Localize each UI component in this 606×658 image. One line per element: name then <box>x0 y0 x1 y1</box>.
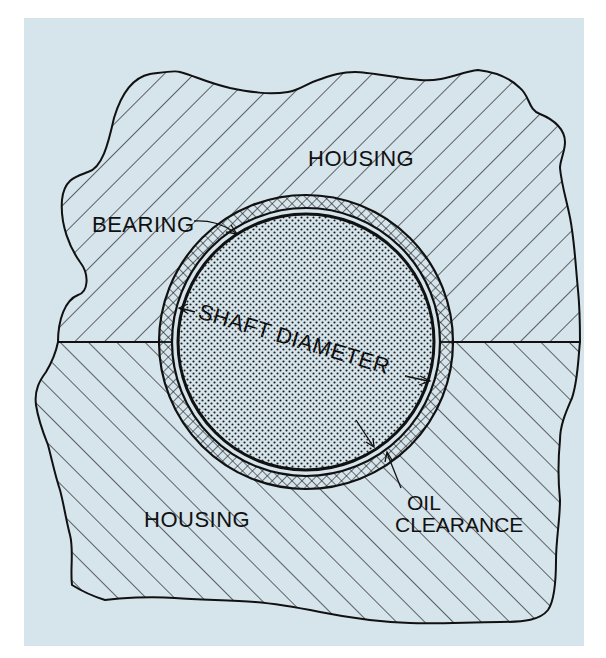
bearing-cross-section-diagram: SHAFT DIAMETER HOUSING BEARING HOUSING O… <box>0 0 606 658</box>
label-bearing: BEARING <box>92 212 195 237</box>
label-housing-top: HOUSING <box>308 146 414 171</box>
label-oil: OIL <box>407 491 441 514</box>
label-clearance: CLEARANCE <box>395 513 523 536</box>
label-housing-bottom: HOUSING <box>144 507 250 532</box>
